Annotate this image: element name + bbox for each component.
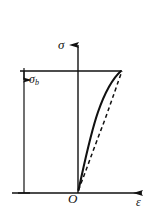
stress-strain-figure: σ ε O σb xyxy=(0,0,156,221)
x-axis-label-epsilon: ε xyxy=(136,196,141,208)
idealized-reference-curve xyxy=(79,71,123,190)
sigma-b-label: σb xyxy=(29,73,39,85)
sigma-b-subscript: b xyxy=(35,78,39,87)
origin-label: O xyxy=(68,192,77,205)
y-axis-label-sigma: σ xyxy=(58,38,64,51)
actual-stress-strain-curve xyxy=(79,71,122,190)
stress-strain-plot xyxy=(0,0,156,221)
